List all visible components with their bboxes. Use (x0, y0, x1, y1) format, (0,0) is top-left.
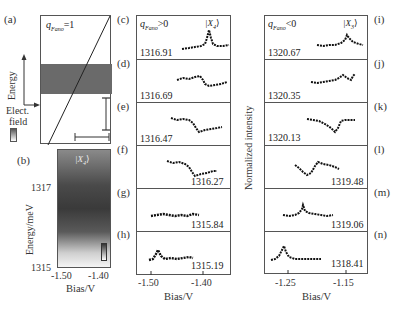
panel-label-l: (l) (374, 143, 384, 155)
xtick-right-1: -1.25 (275, 277, 296, 288)
panel-label-n: (n) (374, 228, 387, 240)
panel-label-i: (i) (374, 13, 384, 25)
right-xlabel: Bias/V (302, 291, 331, 302)
xtick-right-2: -1.15 (333, 277, 354, 288)
panel-label-j: (j) (374, 57, 384, 69)
right-xticks (0, 0, 397, 311)
panel-label-k: (k) (374, 100, 387, 112)
panel-label-m: (m) (374, 186, 390, 198)
